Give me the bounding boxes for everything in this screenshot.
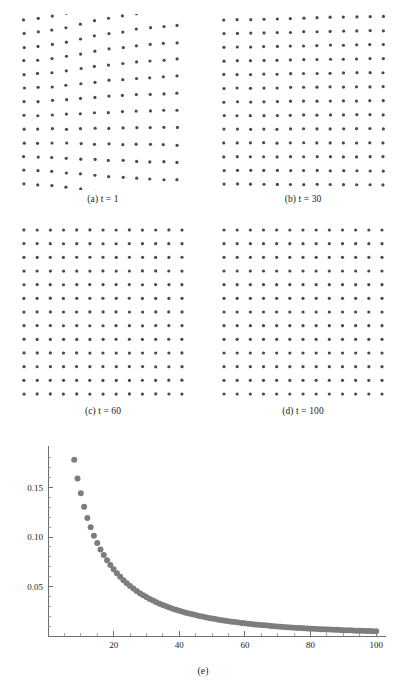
x-tick-label: 20 [109, 640, 119, 650]
lattice-dots-a [18, 14, 188, 190]
caption-panel-c: (c) t = 60 [18, 406, 188, 416]
x-tick-label: 100 [369, 640, 383, 650]
x-tick-label: 60 [240, 640, 250, 650]
decay-plot-panel: 204060801000.050.100.15 [8, 436, 398, 664]
caption-panel-e-text: (e) [198, 666, 209, 676]
lattice-dots-b [218, 14, 388, 190]
lattice-panel-d [218, 224, 388, 400]
caption-panel-d: (d) t = 100 [218, 406, 388, 416]
y-tick-label: 0.10 [27, 532, 43, 542]
caption-panel-a-text: (a) t = 1 [87, 194, 118, 204]
caption-panel-a: (a) t = 1 [18, 194, 188, 204]
caption-panel-c-text: (c) t = 60 [85, 406, 121, 416]
lattice-panel-b [218, 14, 388, 190]
caption-panel-e: (e) [8, 666, 398, 676]
caption-panel-d-text: (d) t = 100 [282, 406, 324, 416]
lattice-panel-a [18, 14, 188, 190]
scatter-series [71, 457, 379, 634]
caption-panel-b-text: (b) t = 30 [285, 194, 322, 204]
y-tick-label: 0.15 [27, 483, 43, 493]
caption-panel-b: (b) t = 30 [218, 194, 388, 204]
y-tick-label: 0.05 [27, 582, 43, 592]
lattice-panel-c [18, 224, 188, 400]
lattice-dots-d [218, 224, 388, 400]
decay-plot-svg: 204060801000.050.100.15 [8, 436, 398, 664]
x-tick-label: 40 [175, 640, 185, 650]
x-tick-label: 80 [306, 640, 316, 650]
lattice-dots-c [18, 224, 188, 400]
figure-root: (a) t = 1 (b) t = 30 (c) t = 60 (d) t = … [0, 0, 406, 694]
